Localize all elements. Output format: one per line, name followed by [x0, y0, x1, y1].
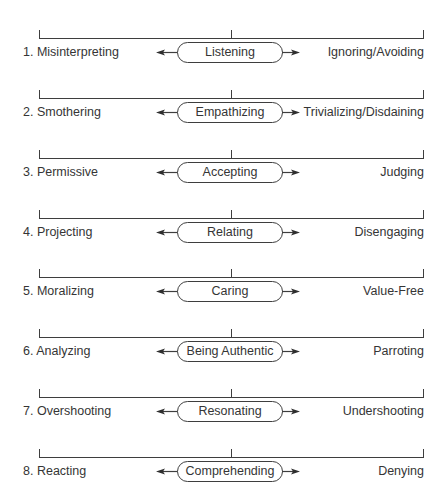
center-concept-text: Listening — [205, 45, 255, 59]
left-pole-text: Reacting — [37, 464, 86, 478]
left-pole-text: Projecting — [37, 225, 93, 239]
left-tick — [39, 449, 40, 458]
row-number: 6. — [23, 344, 33, 358]
arrow-left-icon — [156, 48, 178, 57]
left-tick — [39, 329, 40, 338]
left-pole-text: Overshooting — [37, 404, 111, 418]
right-tick — [423, 210, 424, 219]
arrow-right-icon — [282, 48, 300, 57]
left-pole-label: 7. Overshooting — [23, 403, 111, 419]
left-pole-label: 6. Analyzing — [23, 343, 90, 359]
arrow-left-icon — [156, 287, 178, 296]
center-concept-capsule: Being Authentic — [177, 341, 283, 362]
arrow-left-icon — [156, 467, 178, 476]
left-pole-text: Analyzing — [36, 344, 90, 358]
arrow-right-icon — [282, 407, 300, 416]
left-pole-label: 1. Misinterpreting — [23, 44, 119, 60]
continuum-row: 6. Analyzing Being Authentic Parroting — [0, 329, 448, 369]
continuum-row: 8. Reacting Comprehending Denying — [0, 449, 448, 489]
arrow-left-icon — [156, 168, 178, 177]
center-concept-capsule: Empathizing — [177, 102, 283, 123]
row-number: 7. — [23, 404, 33, 418]
center-concept-text: Comprehending — [186, 464, 275, 478]
left-tick — [39, 30, 40, 39]
continuum-row: 2. Smothering Empathizing Trivializing/D… — [0, 90, 448, 130]
right-tick — [423, 150, 424, 159]
left-pole-text: Permissive — [37, 165, 98, 179]
left-pole-label: 5. Moralizing — [23, 283, 94, 299]
center-concept-capsule: Listening — [177, 42, 283, 63]
continuum-row: 5. Moralizing Caring Value-Free — [0, 269, 448, 309]
left-pole-label: 8. Reacting — [23, 463, 86, 479]
center-tick — [231, 389, 232, 398]
right-pole-label: Undershooting — [343, 403, 424, 419]
center-tick — [231, 449, 232, 458]
right-pole-label: Parroting — [373, 343, 424, 359]
arrow-right-icon — [282, 228, 300, 237]
left-tick — [39, 210, 40, 219]
right-tick — [423, 90, 424, 99]
center-concept-capsule: Resonating — [177, 401, 283, 422]
right-pole-label: Ignoring/Avoiding — [328, 44, 424, 60]
center-tick — [231, 269, 232, 278]
continuum-row: 7. Overshooting Resonating Undershooting — [0, 389, 448, 429]
right-pole-label: Value-Free — [363, 283, 424, 299]
center-concept-text: Accepting — [203, 165, 258, 179]
center-concept-capsule: Relating — [177, 222, 283, 243]
left-tick — [39, 90, 40, 99]
left-pole-label: 4. Projecting — [23, 224, 93, 240]
center-concept-text: Resonating — [198, 404, 261, 418]
center-concept-capsule: Caring — [177, 281, 283, 302]
right-tick — [423, 389, 424, 398]
left-pole-label: 3. Permissive — [23, 164, 98, 180]
center-tick — [231, 150, 232, 159]
center-concept-text: Relating — [207, 225, 253, 239]
arrow-left-icon — [156, 228, 178, 237]
center-tick — [231, 90, 232, 99]
center-tick — [231, 329, 232, 338]
arrow-right-icon — [282, 347, 300, 356]
arrow-left-icon — [156, 108, 178, 117]
left-tick — [39, 150, 40, 159]
left-pole-text: Moralizing — [37, 284, 94, 298]
continuum-diagram: 1. Misinterpreting Listening Ignoring/Av… — [0, 0, 448, 504]
right-tick — [423, 449, 424, 458]
arrow-right-icon — [282, 168, 300, 177]
continuum-row: 3. Permissive Accepting Judging — [0, 150, 448, 190]
center-concept-text: Caring — [212, 284, 249, 298]
right-pole-label: Judging — [380, 164, 424, 180]
right-pole-label: Denying — [378, 463, 424, 479]
center-tick — [231, 210, 232, 219]
right-pole-label: Disengaging — [355, 224, 425, 240]
left-tick — [39, 389, 40, 398]
left-tick — [39, 269, 40, 278]
center-concept-capsule: Accepting — [177, 162, 283, 183]
center-concept-text: Being Authentic — [187, 344, 274, 358]
center-concept-text: Empathizing — [196, 105, 265, 119]
continuum-row: 4. Projecting Relating Disengaging — [0, 210, 448, 250]
right-tick — [423, 329, 424, 338]
left-pole-text: Smothering — [37, 105, 101, 119]
left-pole-label: 2. Smothering — [23, 104, 101, 120]
arrow-left-icon — [156, 407, 178, 416]
arrow-right-icon — [282, 108, 300, 117]
center-tick — [231, 30, 232, 39]
center-concept-capsule: Comprehending — [177, 461, 283, 482]
continuum-row: 1. Misinterpreting Listening Ignoring/Av… — [0, 30, 448, 70]
right-pole-label: Trivializing/Disdaining — [304, 104, 424, 120]
row-number: 1. — [23, 45, 33, 59]
arrow-right-icon — [282, 287, 300, 296]
arrow-left-icon — [156, 347, 178, 356]
row-number: 4. — [23, 225, 33, 239]
left-pole-text: Misinterpreting — [37, 45, 119, 59]
row-number: 2. — [23, 105, 33, 119]
row-number: 5. — [23, 284, 33, 298]
arrow-right-icon — [282, 467, 300, 476]
right-tick — [423, 30, 424, 39]
row-number: 8. — [23, 464, 33, 478]
row-number: 3. — [23, 165, 33, 179]
right-tick — [423, 269, 424, 278]
